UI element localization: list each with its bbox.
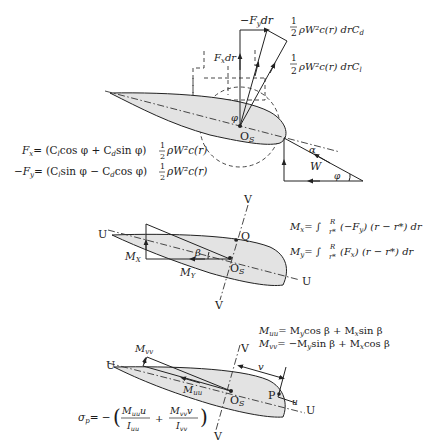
svg-text:ρW²c(r): ρW²c(r) xyxy=(166,165,207,177)
mvv-label: Mvv xyxy=(134,343,153,356)
u-axis-label-right: U xyxy=(302,275,311,288)
svg-text:1: 1 xyxy=(291,53,297,63)
moment-equation-mx: Mx= ∫ R r* (−Fy) (r − r*) dr xyxy=(289,218,423,236)
left-paren: ( xyxy=(113,405,121,429)
stress-equation: σp= − ( Muuu Iuu + Mvvv Ivv ) xyxy=(78,405,208,433)
force-equation-fy: −Fy= (Clsin φ − Cdcos φ) 1 2 ρW²c(r) xyxy=(14,162,207,182)
svg-text:2: 2 xyxy=(291,66,297,76)
svg-text:ρW²c(r) drCl: ρW²c(r) drCl xyxy=(298,61,362,74)
neg-fy-dr-label: −Fydr xyxy=(240,14,274,28)
origin-point xyxy=(238,124,242,128)
v-axis-label-top: V xyxy=(243,193,253,206)
panel-aerodynamic-forces: −Fydr Fxdr 1 2 ρW²c(r) drCd 1 2 ρW²c(r) … xyxy=(14,14,364,182)
u-axis-label-left: U xyxy=(98,228,107,241)
drag-force-label: 1 2 ρW²c(r) drCd xyxy=(290,16,364,38)
phi-arc xyxy=(349,174,350,181)
airfoil-section xyxy=(110,93,286,144)
svg-text:ρW²c(r) drCd: ρW²c(r) drCd xyxy=(298,24,364,37)
svg-text:+: + xyxy=(155,413,163,424)
svg-text:σp= −: σp= − xyxy=(78,411,111,425)
lift-force-label: 1 2 ρW²c(r) drCl xyxy=(290,53,362,76)
svg-text:2: 2 xyxy=(291,28,297,38)
svg-text:(Fx) (r − r*) dr: (Fx) (r − r*) dr xyxy=(340,246,415,259)
svg-text:Fx= (Clcos φ + Cdsin φ): Fx= (Clcos φ + Cdsin φ) xyxy=(21,144,146,158)
phi-triangle-label: φ xyxy=(334,171,341,181)
alpha-angle-label: α xyxy=(309,144,316,155)
svg-text:2: 2 xyxy=(160,152,165,161)
v-distance-label: v xyxy=(258,361,264,372)
svg-text:r*: r* xyxy=(329,253,336,261)
velocity-triangle xyxy=(284,138,363,181)
airfoil-force-diagram: −Fydr Fxdr 1 2 ρW²c(r) drCd 1 2 ρW²c(r) … xyxy=(0,0,428,448)
u-distance-label: u xyxy=(292,397,298,407)
right-paren: ) xyxy=(200,405,208,429)
equation-muu: Muu= Mycos β + Mxsin β xyxy=(258,325,383,338)
force-equation-fx: Fx= (Clcos φ + Cdsin φ) 1 2 ρW²c(r) xyxy=(21,141,207,161)
origin-point xyxy=(228,256,232,260)
svg-text:R: R xyxy=(329,218,336,226)
v-axis-label-top: V xyxy=(240,342,250,355)
point-q-label: Q xyxy=(241,230,250,243)
v-axis-label-bottom: V xyxy=(214,299,224,312)
svg-text:Mvvv: Mvvv xyxy=(169,405,193,418)
equation-mvv: Mvv= −Mysin β + Mxcos β xyxy=(258,338,390,351)
svg-text:2: 2 xyxy=(160,173,165,182)
svg-text:r*: r* xyxy=(329,228,336,236)
u-axis-label-right: U xyxy=(306,404,315,417)
point-q xyxy=(234,238,238,242)
svg-text:Mx= ∫: Mx= ∫ xyxy=(289,221,321,234)
velocity-w-label: W xyxy=(310,160,323,173)
svg-text:1: 1 xyxy=(160,141,165,150)
svg-text:(−Fy) (r − r*) dr: (−Fy) (r − r*) dr xyxy=(340,221,423,234)
fx-dr-label: Fxdr xyxy=(213,52,237,65)
svg-text:1: 1 xyxy=(291,16,297,26)
svg-text:1: 1 xyxy=(160,162,165,171)
svg-text:Muuu: Muuu xyxy=(121,405,146,418)
panel-principal-moments: U U V V P OS v u Mvv Muu Muu= Mycos β + … xyxy=(78,325,390,443)
mx-label: MX xyxy=(124,250,142,264)
svg-text:ρW²c(r): ρW²c(r) xyxy=(166,144,207,156)
svg-text:−Fy= (Clsin φ − Cdcos φ): −Fy= (Clsin φ − Cdcos φ) xyxy=(14,165,147,179)
svg-text:My= ∫: My= ∫ xyxy=(289,246,321,259)
v-axis-label-bottom: V xyxy=(213,430,223,443)
phi-angle-label: φ xyxy=(231,112,238,123)
svg-text:Ivv: Ivv xyxy=(175,420,187,433)
moment-equation-my: My= ∫ R r* (Fx) (r − r*) dr xyxy=(289,243,415,261)
point-p-label: P xyxy=(268,389,276,402)
svg-text:R: R xyxy=(329,243,336,251)
origin-point xyxy=(229,389,233,393)
beta-angle-label: β xyxy=(194,247,201,258)
u-axis-label-left: U xyxy=(106,359,115,372)
svg-text:Iuu: Iuu xyxy=(126,420,139,433)
panel-bending-moments: U U V V Q OS β MX MY Mx= ∫ R r* (−Fy) (r… xyxy=(98,193,423,312)
point-p xyxy=(277,392,281,396)
